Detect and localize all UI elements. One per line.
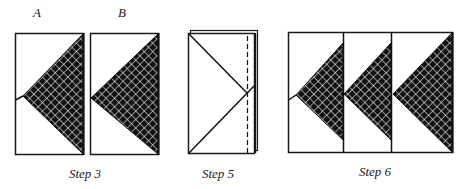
panel-label-a: A [33,5,41,21]
step3-panel-a [16,33,84,155]
step5-folded-unit [189,31,258,154]
step3-panel-b [91,33,159,155]
front-layer [189,34,255,154]
panel-label-b: B [118,5,126,21]
diagram-canvas [0,0,464,189]
step6-joined-units [289,32,453,153]
caption-step-3: Step 3 [69,166,101,182]
caption-step-6: Step 6 [359,164,391,180]
caption-step-5: Step 5 [202,166,234,182]
